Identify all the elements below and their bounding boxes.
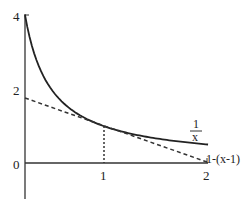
x-tick-label-1: 1 [100, 168, 107, 183]
curve-label-denominator: x [192, 130, 198, 144]
chart: 4 2 0 1 2 1 x 1-(x-1) [0, 0, 251, 206]
y-tick-label-0: 0 [13, 157, 20, 172]
tangent-label: 1-(x-1) [206, 152, 240, 166]
y-tick-label-2: 2 [13, 83, 20, 98]
x-tick-label-2: 2 [203, 168, 210, 183]
reciprocal-curve [25, 15, 208, 145]
curve-label-numerator: 1 [193, 117, 199, 131]
y-tick-label-4: 4 [13, 9, 20, 24]
